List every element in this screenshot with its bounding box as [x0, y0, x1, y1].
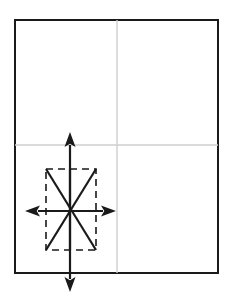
- origami-diagram-svg: [0, 0, 230, 302]
- origami-diagram-canvas: [0, 0, 230, 302]
